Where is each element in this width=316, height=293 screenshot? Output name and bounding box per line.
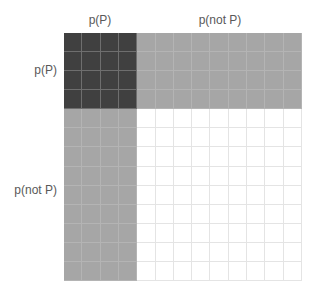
cell-one-p (119, 128, 137, 147)
cell-one-p (284, 52, 302, 71)
cell-p-and-p (82, 33, 100, 52)
cell-one-p (101, 167, 119, 186)
cell-one-p (192, 52, 210, 71)
cell-neither (247, 243, 265, 262)
cell-neither (229, 262, 247, 281)
cell-neither (265, 243, 283, 262)
cell-neither (156, 167, 174, 186)
cell-neither (229, 167, 247, 186)
cell-neither (265, 128, 283, 147)
cell-neither (265, 186, 283, 205)
cell-neither (192, 167, 210, 186)
cell-neither (247, 167, 265, 186)
cell-neither (284, 262, 302, 281)
cell-neither (265, 205, 283, 224)
cell-one-p (101, 147, 119, 166)
cell-neither (229, 224, 247, 243)
cell-one-p (119, 243, 137, 262)
cell-one-p (156, 52, 174, 71)
cell-one-p (229, 33, 247, 52)
cell-one-p (229, 90, 247, 109)
cell-one-p (247, 52, 265, 71)
cell-neither (174, 147, 192, 166)
cell-neither (156, 262, 174, 281)
cell-one-p (265, 90, 283, 109)
cell-neither (192, 128, 210, 147)
cell-neither (284, 243, 302, 262)
cell-one-p (192, 33, 210, 52)
cell-neither (247, 205, 265, 224)
cell-one-p (284, 71, 302, 90)
cell-one-p (82, 205, 100, 224)
cell-neither (229, 128, 247, 147)
cell-p-and-p (82, 71, 100, 90)
cell-neither (284, 128, 302, 147)
cell-neither (174, 128, 192, 147)
cell-neither (174, 262, 192, 281)
cell-one-p (174, 33, 192, 52)
cell-p-and-p (64, 71, 82, 90)
cell-one-p (64, 109, 82, 128)
cell-one-p (119, 109, 137, 128)
cell-one-p (210, 71, 228, 90)
cell-one-p (64, 243, 82, 262)
cell-one-p (119, 262, 137, 281)
cell-one-p (101, 224, 119, 243)
cell-one-p (101, 205, 119, 224)
cell-neither (156, 147, 174, 166)
cell-neither (192, 243, 210, 262)
cell-one-p (101, 186, 119, 205)
cell-one-p (210, 90, 228, 109)
cell-one-p (82, 262, 100, 281)
cell-one-p (64, 128, 82, 147)
cell-neither (247, 224, 265, 243)
cell-p-and-p (82, 90, 100, 109)
cell-one-p (119, 167, 137, 186)
cell-one-p (137, 71, 155, 90)
cell-one-p (192, 90, 210, 109)
cell-neither (174, 186, 192, 205)
cell-neither (192, 205, 210, 224)
cell-neither (210, 109, 228, 128)
cell-neither (210, 128, 228, 147)
cell-one-p (137, 52, 155, 71)
cell-neither (137, 205, 155, 224)
cell-p-and-p (101, 90, 119, 109)
cell-one-p (64, 186, 82, 205)
cell-one-p (265, 33, 283, 52)
cell-one-p (82, 224, 100, 243)
cell-one-p (119, 205, 137, 224)
cell-one-p (64, 205, 82, 224)
cell-neither (265, 109, 283, 128)
cell-neither (284, 147, 302, 166)
cell-one-p (174, 52, 192, 71)
cell-one-p (156, 71, 174, 90)
cell-one-p (192, 71, 210, 90)
cell-one-p (119, 224, 137, 243)
cell-neither (229, 243, 247, 262)
cell-neither (210, 243, 228, 262)
cell-one-p (82, 147, 100, 166)
probability-grid (64, 33, 302, 281)
cell-neither (156, 186, 174, 205)
cell-neither (265, 167, 283, 186)
cell-neither (210, 262, 228, 281)
cell-one-p (265, 52, 283, 71)
cell-one-p (82, 109, 100, 128)
cell-one-p (82, 167, 100, 186)
cell-one-p (247, 90, 265, 109)
cell-neither (156, 243, 174, 262)
cell-neither (156, 109, 174, 128)
cell-one-p (101, 128, 119, 147)
cell-one-p (101, 243, 119, 262)
cell-p-and-p (82, 52, 100, 71)
cell-p-and-p (101, 71, 119, 90)
cell-one-p (82, 243, 100, 262)
cell-one-p (137, 33, 155, 52)
cell-one-p (156, 33, 174, 52)
cell-neither (247, 109, 265, 128)
cell-neither (137, 224, 155, 243)
cell-one-p (174, 90, 192, 109)
cell-neither (284, 109, 302, 128)
cell-neither (284, 186, 302, 205)
